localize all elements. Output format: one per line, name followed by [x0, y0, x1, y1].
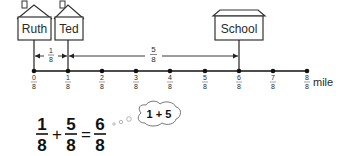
- unit-label: mile: [313, 76, 333, 88]
- thought-bubble-text: 1 + 5: [147, 108, 172, 120]
- ruth-house-icon: [17, 1, 52, 71]
- distance-2-numerator: 5: [151, 45, 156, 54]
- tick-label-4: 4 8: [167, 74, 173, 90]
- svg-text:7: 7: [271, 74, 275, 81]
- term1-denominator: 8: [37, 136, 46, 155]
- svg-text:3: 3: [134, 74, 138, 81]
- svg-text:0: 0: [32, 74, 36, 81]
- school-label: School: [221, 22, 258, 36]
- diagram-canvas: Ruth Ted School 1 8 5 8: [0, 0, 355, 156]
- term2-denominator: 8: [66, 136, 75, 155]
- tick-label-0: 0 8: [31, 74, 37, 90]
- svg-text:8: 8: [66, 83, 70, 90]
- tick-label-6: 6 8: [236, 74, 242, 90]
- tick-label-8: 8 8: [304, 74, 310, 90]
- svg-text:8: 8: [168, 83, 172, 90]
- school-building-icon: [213, 10, 265, 71]
- equals-sign: =: [81, 125, 91, 144]
- tick-label-2: 2 8: [99, 74, 105, 90]
- tick-label-3: 3 8: [133, 74, 139, 90]
- svg-text:4: 4: [168, 74, 172, 81]
- svg-text:8: 8: [305, 74, 309, 81]
- ted-label: Ted: [59, 22, 78, 36]
- distance-1-denominator: 8: [49, 56, 53, 63]
- svg-text:8: 8: [134, 83, 138, 90]
- svg-text:8: 8: [237, 83, 241, 90]
- svg-text:6: 6: [237, 74, 241, 81]
- svg-text:5: 5: [203, 74, 207, 81]
- svg-text:8: 8: [100, 83, 104, 90]
- term2-numerator: 5: [66, 115, 75, 134]
- tick-label-1: 1 8: [65, 74, 71, 90]
- svg-text:8: 8: [203, 83, 207, 90]
- term1-numerator: 1: [37, 115, 46, 134]
- distance-1-numerator: 1: [49, 47, 53, 54]
- plus-sign: +: [52, 125, 62, 144]
- tick-label-7: 7 8: [270, 74, 276, 90]
- svg-text:8: 8: [32, 83, 36, 90]
- result-denominator: 8: [95, 136, 104, 155]
- svg-text:1: 1: [66, 74, 70, 81]
- ted-house-icon: [54, 1, 84, 71]
- tick-label-5: 5 8: [202, 74, 208, 90]
- svg-text:8: 8: [305, 83, 309, 90]
- svg-text:2: 2: [100, 74, 104, 81]
- svg-text:8: 8: [271, 83, 275, 90]
- distance-2-denominator: 8: [151, 55, 156, 64]
- ruth-label: Ruth: [22, 22, 47, 36]
- result-numerator: 6: [95, 115, 104, 134]
- equation: 1 8 + 5 8 = 6 8: [36, 115, 106, 155]
